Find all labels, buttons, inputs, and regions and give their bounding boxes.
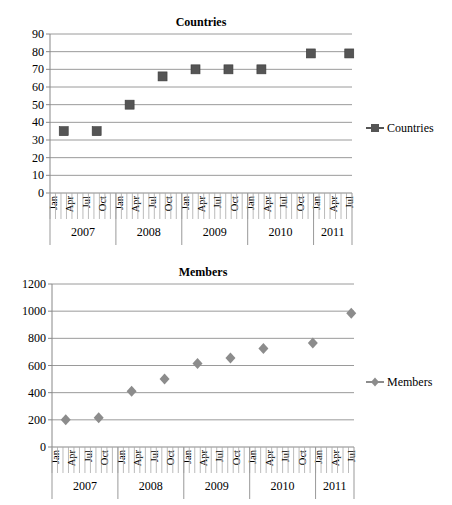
x-tick-label: Jul xyxy=(83,450,94,462)
x-tick-label: Jan xyxy=(48,195,59,210)
y-tick-label: 10 xyxy=(32,168,44,182)
year-label: 2007 xyxy=(73,479,97,493)
legend-square-marker-icon xyxy=(371,124,379,132)
x-tick-label: Jul xyxy=(81,196,92,208)
x-tick-label: Oct xyxy=(97,196,108,211)
x-tick-label: Apr xyxy=(198,450,209,467)
x-tick-label: Jul xyxy=(280,450,291,462)
x-tick-label: Oct xyxy=(165,450,176,465)
x-tick-label: Jul xyxy=(344,196,355,208)
data-point-diamond xyxy=(160,374,170,385)
y-tick-label: 30 xyxy=(32,133,44,147)
x-tick-label: Jan xyxy=(114,195,125,210)
y-tick-label: 400 xyxy=(28,386,46,400)
data-point-diamond xyxy=(225,353,235,364)
data-point-square xyxy=(92,127,101,136)
year-label: 2011 xyxy=(323,479,347,493)
y-tick-label: 0 xyxy=(40,440,46,454)
chart-title: Members xyxy=(179,265,228,279)
x-tick-label: Oct xyxy=(99,450,110,465)
x-tick-label: Jan xyxy=(180,195,191,210)
countries-chart: Countries0102030405060708090JanAprJulOct… xyxy=(0,0,452,250)
year-label: 2010 xyxy=(271,479,295,493)
data-point-diamond xyxy=(258,343,268,354)
y-tick-label: 70 xyxy=(32,62,44,76)
data-point-diamond xyxy=(346,308,356,319)
x-tick-label: Jul xyxy=(346,450,357,462)
data-point-square xyxy=(306,49,315,58)
y-tick-label: 50 xyxy=(32,98,44,112)
x-tick-label: Oct xyxy=(295,196,306,211)
data-point-diamond xyxy=(127,386,137,397)
x-tick-label: Oct xyxy=(163,196,174,211)
year-label: 2008 xyxy=(139,479,163,493)
y-tick-label: 40 xyxy=(32,115,44,129)
countries-chart-canvas: Countries0102030405060708090JanAprJulOct… xyxy=(0,0,452,250)
x-tick-label: Jul xyxy=(149,450,160,462)
y-tick-label: 1200 xyxy=(22,277,46,291)
year-label: 2008 xyxy=(137,225,161,239)
y-tick-label: 90 xyxy=(32,27,44,41)
data-point-diamond xyxy=(94,412,104,423)
x-tick-label: Oct xyxy=(297,450,308,465)
y-tick-label: 60 xyxy=(32,80,44,94)
x-tick-label: Jan xyxy=(247,449,258,464)
chart-title: Countries xyxy=(176,15,227,29)
x-tick-label: Jan xyxy=(313,449,324,464)
x-tick-label: Oct xyxy=(231,450,242,465)
x-tick-label: Jul xyxy=(147,196,158,208)
x-tick-label: Jul xyxy=(278,196,289,208)
x-tick-label: Jan xyxy=(50,449,61,464)
data-point-diamond xyxy=(61,414,71,425)
x-tick-label: Apr xyxy=(132,450,143,467)
legend-diamond-marker-icon xyxy=(371,378,379,387)
x-tick-label: Jan xyxy=(116,449,127,464)
year-label: 2009 xyxy=(205,479,229,493)
data-point-diamond xyxy=(308,338,318,349)
data-point-diamond xyxy=(193,358,203,369)
y-tick-label: 800 xyxy=(28,331,46,345)
x-tick-label: Jan xyxy=(245,195,256,210)
legend-label: Members xyxy=(387,375,433,389)
data-point-square xyxy=(59,127,68,136)
data-point-square xyxy=(345,49,354,58)
year-label: 2007 xyxy=(71,225,95,239)
y-tick-label: 20 xyxy=(32,151,44,165)
year-label: 2010 xyxy=(269,225,293,239)
data-point-square xyxy=(224,65,233,74)
x-tick-label: Oct xyxy=(229,196,240,211)
x-tick-label: Apr xyxy=(262,196,273,213)
x-tick-label: Apr xyxy=(64,196,75,213)
members-chart: Members020040060080010001200JanAprJulOct… xyxy=(0,255,452,505)
y-tick-label: 200 xyxy=(28,413,46,427)
x-tick-label: Apr xyxy=(264,450,275,467)
x-tick-label: Apr xyxy=(196,196,207,213)
x-tick-label: Jul xyxy=(212,196,223,208)
x-tick-label: Apr xyxy=(328,196,339,213)
x-tick-label: Apr xyxy=(66,450,77,467)
year-label: 2011 xyxy=(321,225,345,239)
data-point-square xyxy=(257,65,266,74)
data-point-square xyxy=(158,72,167,81)
x-tick-label: Jul xyxy=(214,450,225,462)
legend-label: Countries xyxy=(387,121,434,135)
x-tick-label: Jan xyxy=(311,195,322,210)
y-tick-label: 600 xyxy=(28,359,46,373)
data-point-square xyxy=(191,65,200,74)
y-tick-label: 1000 xyxy=(22,304,46,318)
members-chart-canvas: Members020040060080010001200JanAprJulOct… xyxy=(0,255,452,505)
y-tick-label: 0 xyxy=(38,186,44,200)
year-label: 2009 xyxy=(203,225,227,239)
x-tick-label: Apr xyxy=(330,450,341,467)
y-tick-label: 80 xyxy=(32,45,44,59)
x-tick-label: Apr xyxy=(130,196,141,213)
x-tick-label: Jan xyxy=(182,449,193,464)
data-point-square xyxy=(125,100,134,109)
